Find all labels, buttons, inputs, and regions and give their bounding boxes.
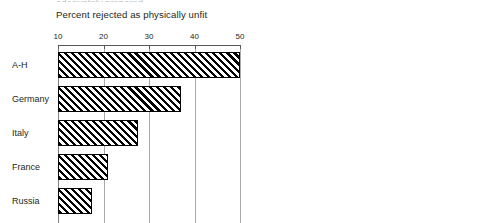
axis-tick-label: 30 bbox=[145, 32, 154, 41]
category-label-a-h: A-H bbox=[12, 52, 28, 78]
category-label-italy: Italy bbox=[12, 120, 29, 146]
bar-row bbox=[58, 120, 240, 146]
bar-germany bbox=[58, 86, 181, 112]
plot-area-left: 1020304050 bbox=[58, 45, 240, 223]
chart-panel-left: Percent rejected as physically unfit 102… bbox=[0, 0, 258, 223]
bar-italy bbox=[58, 120, 138, 146]
axis-tick-50 bbox=[240, 45, 241, 49]
axis-tick-label: 40 bbox=[190, 32, 199, 41]
axis-tick-40 bbox=[195, 45, 196, 49]
bar-france bbox=[58, 154, 108, 180]
axis-tick-label: 20 bbox=[99, 32, 108, 41]
category-label-france: France bbox=[12, 154, 40, 180]
axis-tick-label: 50 bbox=[236, 32, 245, 41]
axis-tick-30 bbox=[149, 45, 150, 49]
bar-a-h bbox=[58, 52, 240, 78]
category-label-russia: Russia bbox=[12, 188, 40, 214]
chart-panel-right: Number of professional NCOs per company … bbox=[258, 0, 494, 223]
axis-tick-10 bbox=[58, 45, 59, 49]
bar-row bbox=[58, 52, 240, 78]
axis-tick-label: 10 bbox=[54, 32, 63, 41]
category-label-germany: Germany bbox=[12, 86, 49, 112]
chart-title-left: Percent rejected as physically unfit bbox=[56, 9, 266, 21]
gridline-50 bbox=[240, 45, 241, 223]
figure-root: adequately prepared Percent rejected as … bbox=[0, 0, 494, 223]
axis-tick-20 bbox=[104, 45, 105, 49]
bar-russia bbox=[58, 188, 92, 214]
bar-row bbox=[58, 154, 240, 180]
bar-row bbox=[58, 86, 240, 112]
bar-row bbox=[58, 188, 240, 214]
